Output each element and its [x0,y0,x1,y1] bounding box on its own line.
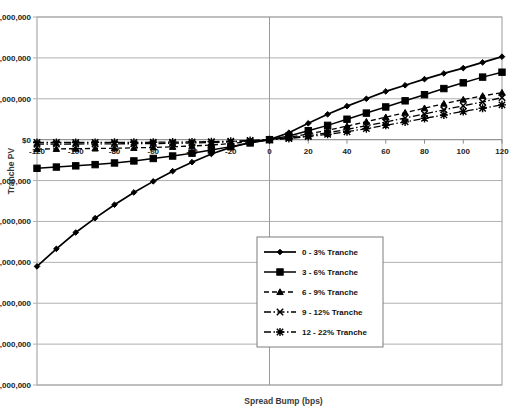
y-tick-label: -$60,000,000 [0,381,32,390]
y-tick-label: $30,000,000 [0,13,32,22]
data-point-marker-square [277,269,283,275]
data-point-marker-star [33,139,41,147]
data-point-marker-square [111,160,117,166]
data-point-marker-star [72,138,80,146]
x-tick-label: 120 [495,147,509,156]
x-tick-label: 0 [267,147,272,156]
data-point-marker-square [421,91,427,97]
chart-canvas: $30,000,000$20,000,000$10,000,000$0-$10,… [0,0,523,417]
x-axis-title: Spread Bump (bps) [244,396,323,406]
data-point-marker-square [479,74,485,80]
data-point-marker-square [344,116,350,122]
data-point-marker-star [401,118,409,126]
data-point-marker-star [91,138,99,146]
data-point-marker-star [276,328,284,336]
legend-label: 12 - 22% Tranche [302,328,367,337]
legend-label: 6 - 9% Tranche [302,288,359,297]
y-axis-ticks: $30,000,000$20,000,000$10,000,000$0-$10,… [0,13,37,390]
x-tick-label: 40 [343,147,352,156]
legend-item[interactable]: 3 - 6% Tranche [264,268,359,277]
x-tick-label: 100 [457,147,471,156]
data-point-marker-star [421,114,429,122]
x-tick-label: 60 [381,147,390,156]
y-axis-title: Tranche PV [6,148,16,195]
legend-label: 3 - 6% Tranche [302,268,359,277]
data-point-marker-star [246,137,254,145]
data-point-marker-square [169,153,175,159]
data-point-marker-square [189,150,195,156]
data-point-marker-square [363,110,369,116]
data-point-marker-star [169,138,177,146]
data-point-marker-star [266,136,274,144]
data-point-marker-square [383,104,389,110]
data-point-marker-square [73,163,79,169]
data-point-marker-star [324,130,332,138]
data-point-marker-star [130,138,138,146]
data-point-marker-star [304,133,312,141]
data-point-marker-star [459,107,467,115]
data-point-marker-star [52,138,60,146]
data-point-marker-star [498,101,506,109]
data-point-marker-star [343,128,351,136]
data-point-marker-star [227,137,235,145]
y-tick-label: -$30,000,000 [0,258,32,267]
data-point-marker-star [479,104,487,112]
data-point-marker-star [362,125,370,133]
data-point-marker-star [285,134,293,142]
legend-item[interactable]: 12 - 22% Tranche [264,328,367,337]
data-point-marker-star [382,121,390,129]
data-point-marker-star [440,111,448,119]
data-point-marker-square [460,80,466,86]
data-point-marker-square [34,165,40,171]
data-point-marker-square [53,164,59,170]
legend-label: 0 - 3% Tranche [302,248,359,257]
data-point-marker-star [188,138,196,146]
x-tick-label: 80 [420,147,429,156]
y-tick-label: -$20,000,000 [0,217,32,226]
chart-legend: 0 - 3% Tranche3 - 6% Tranche6 - 9% Tranc… [257,237,383,347]
data-point-marker-square [402,98,408,104]
data-point-marker-star [149,138,157,146]
data-point-marker-square [131,158,137,164]
x-tick-label: 20 [304,147,313,156]
data-point-marker-square [499,69,505,75]
y-tick-label: $10,000,000 [0,95,32,104]
y-tick-label: $0 [22,136,31,145]
y-tick-label: -$40,000,000 [0,299,32,308]
data-point-marker-square [92,161,98,167]
y-tick-label: -$50,000,000 [0,340,32,349]
legend-label: 9 - 12% Tranche [302,308,363,317]
data-point-marker-star [111,138,119,146]
tranche-pv-chart: $30,000,000$20,000,000$10,000,000$0-$10,… [0,0,523,417]
y-tick-label: $20,000,000 [0,54,32,63]
data-point-marker-square [441,85,447,91]
data-point-marker-square [150,155,156,161]
data-point-marker-star [207,138,215,146]
